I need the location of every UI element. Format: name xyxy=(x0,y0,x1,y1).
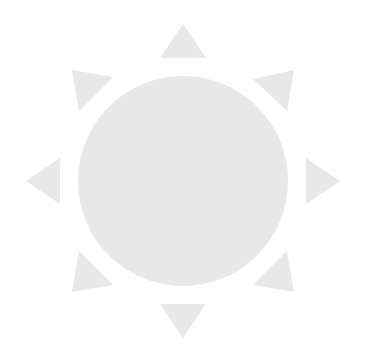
sun-icon xyxy=(0,0,367,359)
icon-canvas xyxy=(0,0,367,359)
sun-disc xyxy=(78,76,288,286)
